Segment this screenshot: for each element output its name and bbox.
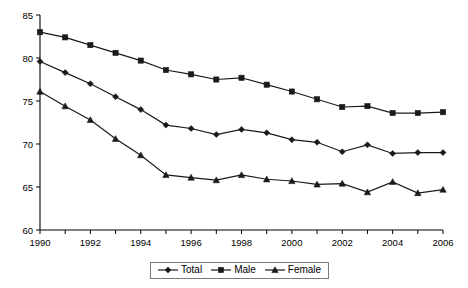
marker-square: [63, 35, 68, 40]
legend-item-total[interactable]: Total: [158, 265, 202, 275]
marker-square: [214, 77, 219, 82]
legend-item-female[interactable]: Female: [265, 265, 321, 275]
y-tick-label: 75: [22, 96, 33, 107]
y-tick-label: 60: [22, 225, 33, 236]
x-tick-label: 1992: [80, 237, 101, 248]
marker-diamond: [37, 58, 43, 64]
series-total: [37, 58, 446, 156]
marker-diamond: [113, 94, 119, 100]
marker-diamond: [163, 122, 169, 128]
marker-diamond: [87, 81, 93, 87]
legend-marker-square: [211, 265, 231, 275]
legend-label: Male: [234, 265, 256, 275]
marker-square: [415, 110, 420, 115]
series-male: [37, 30, 445, 116]
legend-item-male[interactable]: Male: [211, 265, 256, 275]
marker-square: [340, 104, 345, 109]
legend-label: Total: [181, 265, 202, 275]
marker-square: [289, 89, 294, 94]
marker-diamond: [264, 130, 270, 136]
marker-triangle: [37, 88, 43, 94]
marker-square: [440, 110, 445, 115]
x-tick-label: 2002: [332, 237, 353, 248]
marker-square: [163, 67, 168, 72]
marker-triangle: [62, 103, 68, 109]
line-chart: 606570758085 199019921994199619982000200…: [0, 0, 468, 288]
chart-legend: TotalMaleFemale: [150, 262, 329, 279]
marker-diamond: [339, 149, 345, 155]
marker-diamond: [364, 142, 370, 148]
marker-diamond: [289, 137, 295, 143]
marker-triangle: [87, 117, 93, 123]
marker-diamond: [440, 150, 446, 156]
marker-square: [239, 75, 244, 80]
legend-marker-triangle: [265, 265, 285, 275]
marker-triangle: [238, 172, 244, 178]
legend-marker-diamond: [158, 265, 178, 275]
y-axis: 606570758085: [22, 10, 40, 236]
marker-diamond: [390, 150, 396, 156]
y-tick-label: 70: [22, 139, 33, 150]
x-tick-label: 2006: [432, 237, 453, 248]
marker-square: [264, 82, 269, 87]
marker-diamond: [62, 70, 68, 76]
marker-square: [189, 72, 194, 77]
marker-diamond: [165, 267, 171, 273]
marker-square: [314, 97, 319, 102]
x-axis: 199019921994199619982000200220042006: [29, 230, 453, 248]
series-line-male: [40, 32, 443, 113]
x-tick-label: 1996: [181, 237, 202, 248]
marker-square: [37, 30, 42, 35]
marker-square: [365, 104, 370, 109]
x-tick-label: 2000: [281, 237, 302, 248]
marker-square: [113, 50, 118, 55]
series-layer: [37, 30, 446, 196]
series-female: [37, 88, 446, 195]
x-tick-label: 2004: [382, 237, 403, 248]
y-tick-label: 65: [22, 182, 33, 193]
marker-square: [88, 43, 93, 48]
y-tick-label: 85: [22, 10, 33, 21]
x-tick-label: 1994: [130, 237, 151, 248]
marker-square: [219, 267, 224, 272]
marker-square: [138, 58, 143, 63]
marker-triangle: [389, 179, 395, 185]
marker-diamond: [213, 132, 219, 138]
chart-canvas: 606570758085 199019921994199619982000200…: [0, 0, 468, 288]
marker-diamond: [188, 126, 194, 132]
y-tick-label: 80: [22, 53, 33, 64]
marker-triangle: [138, 152, 144, 158]
marker-diamond: [415, 150, 421, 156]
marker-square: [390, 110, 395, 115]
legend-label: Female: [288, 265, 321, 275]
marker-diamond: [314, 139, 320, 145]
x-tick-label: 1998: [231, 237, 252, 248]
marker-diamond: [239, 126, 245, 132]
x-tick-label: 1990: [29, 237, 50, 248]
marker-diamond: [138, 107, 144, 113]
